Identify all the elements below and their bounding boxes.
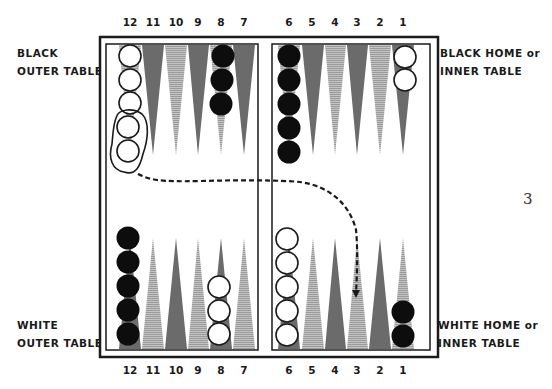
bottom-6-white-checkers — [276, 228, 298, 346]
backgammon-board — [0, 0, 552, 389]
top-6-black-checkers — [278, 45, 301, 164]
bottom-8-white-checkers — [208, 276, 230, 345]
bottom-12-black-checkers — [117, 227, 140, 346]
top-8-black-checkers — [210, 45, 235, 116]
top-12-white-checkers — [117, 45, 141, 162]
